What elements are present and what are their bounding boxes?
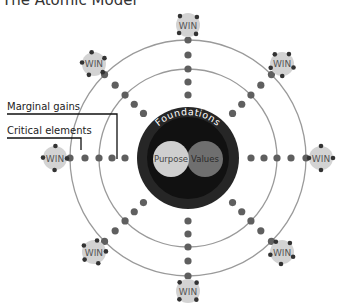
spoke-dot bbox=[81, 154, 88, 161]
spoke-dot bbox=[184, 257, 191, 264]
spoke-dot bbox=[247, 217, 254, 224]
win-badge: WIN bbox=[176, 279, 200, 303]
win-label: WIN bbox=[179, 21, 197, 31]
win-label: WIN bbox=[46, 154, 64, 164]
spoke-dot bbox=[229, 110, 236, 117]
foundations-core: FoundationsPurposeValues bbox=[137, 106, 239, 209]
win-label: WIN bbox=[312, 154, 330, 164]
spoke-dot bbox=[131, 101, 138, 108]
spoke-dot bbox=[184, 65, 191, 72]
spoke-dot bbox=[287, 154, 294, 161]
spoke-dot bbox=[140, 199, 147, 206]
spoke-dot bbox=[184, 230, 191, 237]
spoke-dot bbox=[184, 36, 191, 43]
spoke-dot bbox=[140, 110, 147, 117]
values-label: Values bbox=[191, 154, 219, 164]
spoke-dot bbox=[247, 154, 254, 161]
spoke-dot bbox=[257, 82, 264, 89]
spoke-dot bbox=[184, 272, 191, 279]
win-badge: WIN bbox=[80, 50, 107, 77]
spoke-dot bbox=[131, 208, 138, 215]
critical-elements-label: Critical elements bbox=[7, 125, 92, 136]
atomic-model-diagram: FoundationsPurposeValues WINWINWINWINWIN… bbox=[0, 0, 354, 308]
spoke-dot bbox=[273, 154, 280, 161]
win-badge: WIN bbox=[176, 13, 200, 37]
spoke-dot bbox=[184, 78, 191, 85]
win-badge: WIN bbox=[41, 144, 70, 173]
win-label: WIN bbox=[273, 248, 291, 258]
spoke-dot bbox=[257, 227, 264, 234]
spoke-dot bbox=[121, 91, 128, 98]
win-label: WIN bbox=[179, 287, 197, 297]
marginal-gains-label: Marginal gains bbox=[7, 101, 80, 112]
spoke-dot bbox=[121, 154, 128, 161]
spoke-dot bbox=[184, 91, 191, 98]
win-label: WIN bbox=[273, 59, 291, 69]
spoke-dot bbox=[260, 154, 267, 161]
spoke-dot bbox=[229, 199, 236, 206]
win-label: WIN bbox=[85, 59, 103, 69]
spoke-dot bbox=[184, 51, 191, 58]
spoke-dot bbox=[238, 101, 245, 108]
spoke-dot bbox=[121, 217, 128, 224]
spoke-dot bbox=[112, 227, 119, 234]
spoke-dot bbox=[112, 82, 119, 89]
spoke-dot bbox=[247, 91, 254, 98]
spoke-dot bbox=[95, 154, 102, 161]
spoke-dot bbox=[108, 154, 115, 161]
spoke-dot bbox=[184, 217, 191, 224]
spoke-dot bbox=[238, 208, 245, 215]
win-label: WIN bbox=[85, 248, 103, 258]
spoke-dot bbox=[184, 243, 191, 250]
purpose-label: Purpose bbox=[154, 154, 188, 164]
win-badge: WIN bbox=[307, 144, 336, 173]
